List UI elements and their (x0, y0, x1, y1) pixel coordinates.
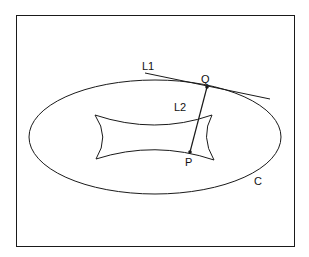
label-l2: L2 (174, 101, 186, 113)
line-l2 (190, 87, 207, 152)
label-q: Q (201, 73, 210, 85)
label-c: C (254, 175, 262, 187)
frame-border (17, 16, 295, 247)
point-p-marker (188, 150, 192, 154)
label-p: P (185, 156, 192, 168)
diagram-canvas: L1 Q L2 P C (0, 0, 309, 257)
point-q-marker (205, 85, 209, 89)
label-l1: L1 (142, 60, 154, 72)
inner-concave-shape (95, 115, 214, 160)
curve-c (29, 80, 281, 194)
